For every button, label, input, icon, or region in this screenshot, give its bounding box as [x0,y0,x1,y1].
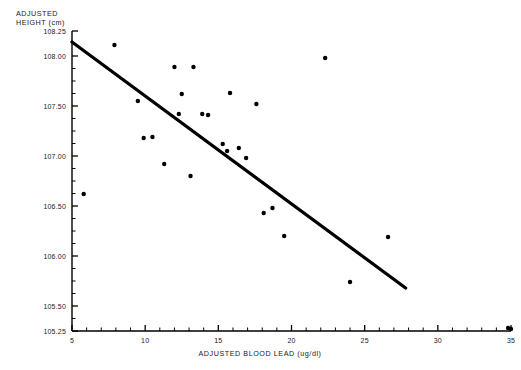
data-point [237,146,241,150]
data-point [348,280,352,284]
x-tick-label: 5 [70,337,74,344]
data-point [244,156,248,160]
y-tick-label: 107.50 [43,103,66,110]
x-tick-label: 35 [507,337,515,344]
x-tick-label: 10 [141,337,149,344]
data-point [228,91,232,95]
x-axis-ticks [72,325,511,331]
data-point [270,206,274,210]
y-tick-label: 107.00 [43,153,66,160]
regression-line-segment [72,42,406,288]
data-point [254,102,258,106]
y-axis-ticks [72,31,78,331]
data-point [191,65,195,69]
data-point [112,43,116,47]
plot-canvas: ADJUSTED HEIGHT (cm) ADJUSTED BLOOD LEAD… [0,0,521,370]
x-axis-tick-labels: 5101520253035 [70,337,515,344]
y-axis-tick-labels: 105.25105.50106.00106.50107.00107.50108.… [43,28,66,335]
data-point [206,113,210,117]
data-point [509,327,513,331]
y-tick-label: 106.00 [43,253,66,260]
y-tick-label: 108.00 [43,53,66,60]
y-tick-label: 106.50 [43,203,66,210]
x-tick-label: 20 [287,337,295,344]
x-tick-label: 30 [434,337,442,344]
data-point [142,136,146,140]
y-tick-label: 108.25 [43,28,66,35]
y-tick-label: 105.50 [43,303,66,310]
data-point [172,65,176,69]
data-point [162,162,166,166]
data-point [150,135,154,139]
data-point [177,112,181,116]
regression-line [72,42,406,288]
y-axis-label-line1: ADJUSTED [16,9,58,18]
x-tick-label: 15 [214,337,222,344]
scatter-plot-figure: ADJUSTED HEIGHT (cm) ADJUSTED BLOOD LEAD… [0,0,521,370]
x-tick-label: 25 [361,337,369,344]
data-point [323,56,327,60]
data-point [136,99,140,103]
y-tick-label: 105.25 [43,328,66,335]
data-point [180,92,184,96]
data-point [188,174,192,178]
y-axis-label-line2: HEIGHT (cm) [16,18,65,27]
data-point [262,211,266,215]
data-point [386,235,390,239]
data-point [282,234,286,238]
data-point [221,142,225,146]
data-point [225,149,229,153]
x-axis-label: ADJUSTED BLOOD LEAD (ug/dl) [198,349,321,358]
data-point [200,112,204,116]
data-point [82,192,86,196]
data-points [82,43,514,331]
